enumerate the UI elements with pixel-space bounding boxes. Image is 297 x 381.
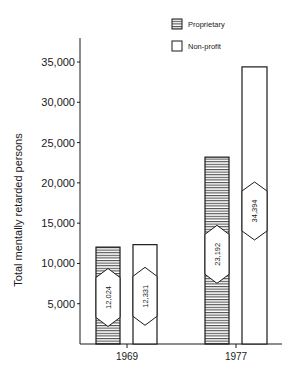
- x-axis-labels: 19691977: [116, 344, 248, 362]
- y-tick-label: 35,000: [41, 56, 75, 68]
- y-tick-label: 30,000: [41, 96, 75, 108]
- legend-label-non-profit: Non-profit: [188, 42, 222, 51]
- legend: Proprietary Non-profit: [172, 19, 225, 51]
- y-tick-label: 25,000: [41, 137, 75, 149]
- x-category-label: 1969: [116, 351, 139, 362]
- bar-proprietary-1969: 12,024: [96, 247, 120, 344]
- legend-label-proprietary: Proprietary: [188, 20, 225, 29]
- y-axis-ticks: 5,00010,00015,00020,00025,00030,00035,00…: [41, 56, 80, 310]
- bar-chart: Total mentally retarded persons 5,00010,…: [0, 0, 297, 381]
- y-tick-label: 5,000: [47, 298, 75, 310]
- value-label: 12,331: [141, 285, 150, 308]
- bar-non-profit-1969: 12,331: [133, 245, 157, 344]
- x-category-label: 1977: [225, 351, 248, 362]
- bar-non-profit-1977: 34,394: [242, 67, 267, 344]
- bars: 12,02412,33123,19234,394: [96, 67, 267, 344]
- proprietary-swatch-icon: [172, 19, 182, 29]
- y-tick-label: 15,000: [41, 217, 75, 229]
- value-label: 23,192: [213, 243, 222, 266]
- y-tick-label: 10,000: [41, 257, 75, 269]
- bar-proprietary-1977: 23,192: [205, 157, 229, 344]
- value-label: 12,024: [104, 286, 113, 309]
- value-label: 34,394: [250, 200, 259, 223]
- non-profit-swatch-icon: [172, 41, 182, 51]
- y-tick-label: 20,000: [41, 177, 75, 189]
- y-axis-title: Total mentally retarded persons: [12, 133, 24, 287]
- legend-item-proprietary: Proprietary: [172, 19, 225, 29]
- legend-item-non-profit: Non-profit: [172, 41, 222, 51]
